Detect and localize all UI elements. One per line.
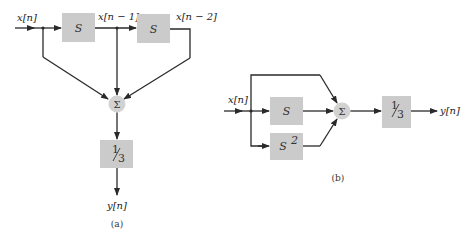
b-s2-wire	[251, 111, 262, 146]
b-input-label: x[n]	[228, 94, 248, 105]
b-s2-to-sum-arrow	[320, 119, 337, 146]
a-caption: (a)	[111, 219, 123, 229]
b-summer-symbol: Σ	[338, 106, 345, 117]
a-tap2-wire	[170, 29, 190, 58]
b-output-label: y[n]	[439, 105, 460, 116]
block-diagrams: x[n] S x[n − 1] S x[n − 2] Σ 1	[0, 0, 469, 238]
b-s-label: S	[283, 105, 291, 118]
a-tap1-label: x[n − 1]	[98, 11, 139, 22]
diagram-a: x[n] S x[n − 1] S x[n − 2] Σ 1	[15, 11, 217, 229]
b-s2-label: S	[279, 140, 287, 153]
b-s2-exponent: 2	[290, 134, 298, 147]
b-scale-denominator: 3	[397, 108, 404, 121]
b-caption: (b)	[332, 173, 345, 183]
a-input-label: x[n]	[17, 12, 37, 23]
a-output-label: y[n]	[106, 200, 127, 211]
diagram-b: x[n] S S 2 Σ 1 3 y[n]	[224, 75, 460, 183]
a-tap2-label: x[n − 2]	[176, 11, 217, 22]
b-bypass-to-sum-arrow	[320, 75, 337, 103]
a-block1-label: S	[75, 22, 83, 35]
a-scale-denominator: 3	[118, 152, 125, 165]
a-summer-symbol: Σ	[113, 99, 120, 110]
a-block2-label: S	[150, 23, 158, 36]
a-tap0-to-sum-arrow	[43, 57, 108, 99]
a-tap2-to-sum-arrow	[124, 58, 190, 99]
